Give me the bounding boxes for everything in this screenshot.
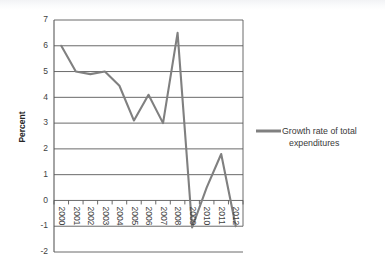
x-axis-tick-marks [54,200,243,204]
x-tick-label: 2002 [86,206,96,225]
y-tick-label: 1 [43,169,48,179]
x-tick-label: 2000 [57,206,67,225]
legend-label-line2: expenditures [289,138,340,148]
chart-figure: -2-101234567 200020012002200320042005200… [0,0,385,275]
y-tick-label: 3 [43,117,48,127]
x-tick-label: 2011 [217,206,227,225]
x-tick-label: 2010 [202,206,212,225]
x-tick-label: 2012 [231,206,241,225]
line-chart-canvas: -2-101234567 200020012002200320042005200… [0,0,385,275]
chart-legend: Growth rate of total expenditures [256,126,357,148]
data-series-group [61,33,235,228]
y-tick-label: -1 [40,220,48,230]
y-tick-label: 7 [43,14,48,24]
x-tick-label: 2009 [188,206,198,225]
x-axis-tick-labels: 2000200120022003200420052006200720082009… [57,206,241,225]
y-tick-label: -2 [40,246,48,256]
y-axis-tick-labels: -2-101234567 [40,14,48,256]
y-tick-label: 0 [43,195,48,205]
x-tick-label: 2001 [72,206,82,225]
y-tick-label: 5 [43,66,48,76]
y-axis-title: Percent [17,111,27,142]
x-tick-label: 2005 [130,206,140,225]
x-tick-label: 2008 [173,206,183,225]
y-tick-label: 2 [43,143,48,153]
x-tick-label: 2006 [144,206,154,225]
x-tick-label: 2003 [101,206,111,225]
x-tick-label: 2007 [159,206,169,225]
legend-label-line1: Growth rate of total [282,126,357,136]
y-tick-label: 4 [43,92,48,102]
series-line-growth-rate-of-total-expenditures [61,33,235,228]
y-axis-title-text: Percent [17,111,27,142]
y-tick-label: 6 [43,40,48,50]
x-tick-label: 2004 [115,206,125,225]
